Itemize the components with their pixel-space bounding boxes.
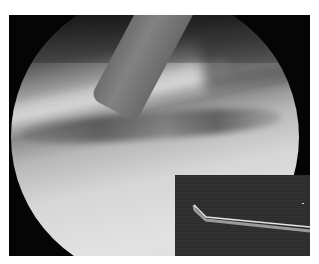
arthroscopic-image-frame	[9, 15, 310, 256]
hook-probe-icon	[175, 175, 310, 256]
instrument-inset	[175, 175, 310, 256]
